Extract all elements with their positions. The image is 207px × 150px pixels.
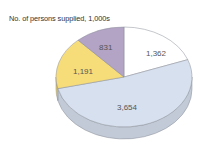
slice-label-1191: 1,191	[73, 67, 94, 76]
pie-slices	[56, 27, 192, 139]
slice-label-3654: 3,654	[117, 103, 138, 112]
pie-chart: 1,362 3,654 1,191 831	[0, 0, 207, 150]
slice-label-831: 831	[99, 43, 113, 52]
slice-label-1362: 1,362	[146, 49, 167, 58]
